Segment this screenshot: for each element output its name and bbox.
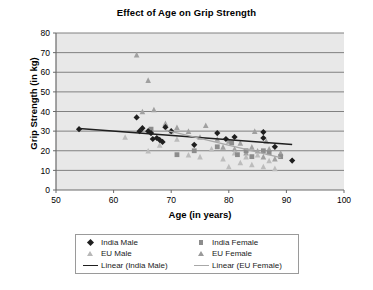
legend-item-linear-eu-female: Linear (EU Female) — [187, 260, 298, 270]
x-tick-label: 70 — [166, 195, 176, 205]
legend-label: EU Female — [212, 249, 252, 258]
triangle-marker-icon — [193, 249, 209, 259]
y-tick-label: 10 — [41, 166, 51, 176]
line-marker-icon — [82, 260, 98, 270]
y-tick-label: 0 — [45, 185, 50, 195]
legend-label: EU Male — [101, 249, 132, 258]
line-marker-icon — [193, 260, 209, 270]
y-tick-label: 70 — [41, 48, 51, 58]
y-tick-label: 30 — [41, 126, 51, 136]
legend-item-linear-india-male: Linear (India Male) — [76, 260, 187, 270]
x-tick-label: 100 — [337, 195, 351, 205]
data-point-square — [175, 152, 180, 157]
legend-item-eu-male: EU Male — [76, 249, 187, 259]
y-tick-label: 60 — [41, 67, 51, 77]
data-point-square — [192, 148, 197, 153]
legend-item-india-male: India Male — [76, 238, 187, 248]
chart-legend: India Male India Female EU Male EU Femal… — [75, 234, 299, 274]
diamond-marker-icon — [82, 238, 98, 248]
y-tick-label: 80 — [41, 28, 51, 38]
data-point-square — [215, 144, 220, 149]
legend-item-eu-female: EU Female — [187, 249, 298, 259]
legend-label: Linear (India Male) — [101, 261, 168, 270]
x-axis-label: Age (in years) — [55, 209, 345, 220]
x-tick-label: 90 — [282, 195, 292, 205]
legend-label: India Female — [212, 238, 258, 247]
data-point-square — [249, 154, 254, 159]
y-tick-label: 20 — [41, 146, 51, 156]
legend-label: India Male — [101, 238, 138, 247]
legend-item-india-female: India Female — [187, 238, 298, 248]
y-tick-label: 40 — [41, 107, 51, 117]
x-tick-label: 50 — [51, 195, 61, 205]
chart-container: Effect of Age on Grip Strength Grip Stre… — [0, 0, 373, 290]
x-tick-label: 80 — [224, 195, 234, 205]
y-tick-label: 50 — [41, 87, 51, 97]
legend-label: Linear (EU Female) — [212, 261, 282, 270]
data-point-square — [229, 141, 234, 146]
data-point-square — [235, 152, 240, 157]
x-tick-label: 60 — [109, 195, 119, 205]
square-marker-icon — [193, 238, 209, 248]
triangle-marker-icon — [82, 249, 98, 259]
